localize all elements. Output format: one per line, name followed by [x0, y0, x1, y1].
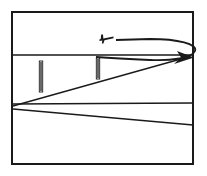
- figure-background: [0, 0, 207, 176]
- perspective-diagram: [0, 0, 207, 176]
- figure-container: [0, 0, 207, 176]
